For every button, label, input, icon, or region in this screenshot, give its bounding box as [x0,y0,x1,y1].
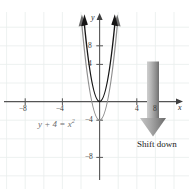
coordinate-plane [0,0,189,189]
x-tick-label-minus4: −4 [56,104,64,113]
shift-down-caption: Shift down [126,139,188,149]
y-tick-label-minus4: −4 [85,115,93,124]
y-axis-label: y [91,13,95,22]
equation-label-text: y + 4 = x [38,119,72,129]
y-tick-label-8: 8 [88,41,92,50]
y-tick-label-minus8: −8 [85,152,93,161]
x-tick-label-4: 4 [135,104,139,113]
x-tick-label-8: 8 [153,104,157,113]
graph-figure: −8 −4 4 8 8 4 −4 −8 x y y + 4 = x2 Shift… [0,0,189,189]
equation-label: y + 4 = x2 [38,118,75,129]
x-axis-label: x [178,103,182,112]
equation-label-exponent: 2 [72,118,75,124]
y-axis-arrowhead [97,13,103,20]
shift-down-arrow-icon [140,62,166,137]
y-tick-label-4: 4 [88,59,92,68]
x-tick-label-minus8: −8 [19,104,27,113]
y-axis [96,13,103,180]
grid-lines [0,12,189,189]
